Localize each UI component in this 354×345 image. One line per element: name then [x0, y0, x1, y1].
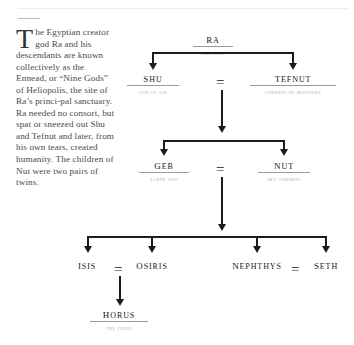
page-top-rule — [18, 8, 348, 9]
node-geb[interactable]: Geb Earth God — [134, 159, 194, 183]
edge-isisosiris-descend-arrow — [116, 299, 124, 306]
edge-to-nut-arrow — [280, 149, 288, 156]
node-horus-name: Horus — [89, 308, 149, 320]
node-shu-subtitle: God of Air — [123, 88, 183, 96]
node-nut-rule — [258, 172, 310, 173]
edge-gebnut-descend-stem — [221, 177, 223, 225]
node-geb-rule — [139, 172, 189, 173]
edge-to-osiris-arrow — [148, 246, 156, 253]
page-top-rule-accent — [18, 18, 40, 19]
node-horus[interactable]: Horus The Child — [89, 308, 149, 332]
node-geb-subtitle: Earth God — [134, 175, 194, 183]
edge-gebnut-descend-arrow — [218, 224, 226, 231]
edge-to-geb-arrow — [160, 149, 168, 156]
node-shu[interactable]: Shu God of Air — [123, 72, 183, 96]
edge-gebnut-to-children-bar — [87, 236, 327, 238]
marriage-symbol-isis-osiris: = — [114, 262, 122, 277]
node-tefnut[interactable]: Tefnut Goddess of Moisture — [248, 72, 338, 96]
marriage-symbol-nephthys-seth: = — [291, 262, 299, 277]
node-horus-subtitle: The Child — [89, 324, 149, 332]
drop-cap: T — [16, 28, 35, 49]
edge-to-nephthys-arrow — [253, 246, 261, 253]
edge-to-seth-arrow — [322, 246, 330, 253]
node-nephthys-name: Nephthys — [226, 259, 288, 271]
edge-shutefnut-descend-stem — [221, 90, 223, 127]
node-shu-name: Shu — [123, 72, 183, 84]
edge-ra-to-children-bar — [152, 52, 294, 54]
node-horus-rule — [90, 321, 148, 322]
node-isis[interactable]: Isis — [62, 259, 112, 271]
article-body-paragraph: he Egyptian creator god Ra and his desce… — [16, 27, 114, 187]
node-nut[interactable]: Nut Sky Goddess — [254, 159, 314, 183]
node-nut-name: Nut — [254, 159, 314, 171]
page-canvas: The Egyptian creator god Ra and his desc… — [0, 0, 354, 345]
node-seth-name: Seth — [304, 259, 348, 271]
edge-to-isis-arrow — [84, 246, 92, 253]
node-nephthys[interactable]: Nephthys — [226, 259, 288, 271]
edge-shutefnut-descend-arrow — [218, 126, 226, 133]
node-tefnut-rule — [250, 85, 336, 86]
node-tefnut-subtitle: Goddess of Moisture — [248, 88, 338, 96]
node-ra-rule — [193, 46, 233, 47]
node-isis-name: Isis — [62, 259, 112, 271]
node-shu-rule — [127, 85, 179, 86]
node-seth[interactable]: Seth — [304, 259, 348, 271]
edge-isisosiris-descend-stem — [119, 276, 121, 300]
marriage-symbol-geb-nut: = — [216, 162, 224, 177]
node-tefnut-name: Tefnut — [248, 72, 338, 84]
node-osiris[interactable]: Osiris — [126, 259, 178, 271]
edge-ra-to-tefnut-arrow — [289, 63, 297, 70]
node-nut-subtitle: Sky Goddess — [254, 175, 314, 183]
edge-ra-to-shu-arrow — [149, 63, 157, 70]
node-geb-name: Geb — [134, 159, 194, 171]
node-osiris-name: Osiris — [126, 259, 178, 271]
marriage-symbol-shu-tefnut: = — [216, 75, 224, 90]
edge-shutefnut-to-children-bar — [163, 140, 285, 142]
node-ra-name: Ra — [183, 33, 243, 45]
article-body-text: The Egyptian creator god Ra and his desc… — [16, 27, 115, 189]
